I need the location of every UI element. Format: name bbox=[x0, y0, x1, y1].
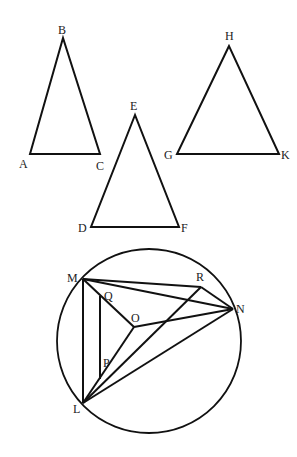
label-n: N bbox=[236, 302, 245, 316]
label-l: L bbox=[73, 402, 80, 416]
triangle-ghk: H G K bbox=[164, 29, 290, 162]
label-m: M bbox=[67, 271, 78, 285]
label-p: P bbox=[103, 356, 110, 370]
label-h: H bbox=[225, 29, 234, 43]
label-o: O bbox=[131, 311, 140, 325]
label-q: Q bbox=[104, 289, 113, 303]
triangle-abc-shape bbox=[30, 38, 100, 154]
label-a: A bbox=[19, 157, 28, 171]
triangle-def: E D F bbox=[78, 99, 188, 235]
triangle-ghk-shape bbox=[177, 46, 279, 154]
label-k: K bbox=[281, 148, 290, 162]
circle-figure: M R N Q O P L bbox=[57, 249, 245, 433]
label-b: B bbox=[58, 23, 66, 37]
triangle-def-shape bbox=[91, 115, 179, 227]
label-r: R bbox=[196, 270, 204, 284]
label-c: C bbox=[96, 159, 104, 173]
label-g: G bbox=[164, 148, 173, 162]
label-e: E bbox=[130, 99, 137, 113]
triangle-abc: B A C bbox=[19, 23, 104, 173]
label-f: F bbox=[181, 221, 188, 235]
label-d: D bbox=[78, 221, 87, 235]
geometry-diagram: B A C H G K E D F bbox=[0, 0, 297, 457]
segment-mo bbox=[83, 279, 134, 327]
circumcircle bbox=[57, 249, 241, 433]
